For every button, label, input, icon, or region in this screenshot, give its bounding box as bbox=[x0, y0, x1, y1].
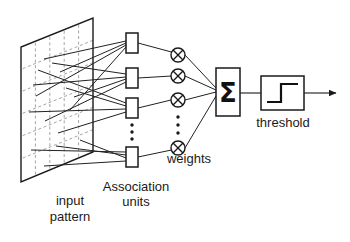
assoc-unit-4[interactable] bbox=[126, 147, 138, 167]
weight-nodes-group bbox=[171, 48, 185, 155]
assoc-unit-3[interactable] bbox=[126, 98, 138, 118]
weight-node-2[interactable] bbox=[171, 69, 185, 83]
threshold-label: threshold bbox=[256, 115, 309, 130]
association-to-weight-connections bbox=[138, 43, 172, 157]
input-pattern-label-line2: pattern bbox=[50, 209, 90, 224]
assoc-unit-2[interactable] bbox=[126, 68, 138, 88]
assoc-unit-1[interactable] bbox=[126, 33, 138, 53]
assoc-unit-ellipsis bbox=[130, 123, 133, 140]
weight-node-1[interactable] bbox=[171, 48, 185, 62]
weight-node-3[interactable] bbox=[171, 93, 185, 107]
summation-symbol: Σ bbox=[219, 78, 237, 108]
summation-box[interactable]: Σ bbox=[216, 68, 240, 116]
neural-network-diagram: Σ input pattern Association units weight… bbox=[0, 0, 350, 242]
association-units-label-line2: units bbox=[122, 194, 150, 209]
weight-node-ellipsis bbox=[176, 115, 179, 134]
input-pattern-plane bbox=[21, 18, 93, 182]
weights-label: weights bbox=[166, 151, 212, 166]
diagram-labels: input pattern Association units weights … bbox=[50, 115, 310, 224]
input-pattern-label-line1: input bbox=[56, 193, 85, 208]
association-units-label-line1: Association bbox=[103, 179, 169, 194]
weight-to-summation-connections bbox=[185, 55, 216, 148]
threshold-box[interactable] bbox=[261, 76, 304, 110]
association-units-group bbox=[126, 33, 138, 167]
input-plane-outline bbox=[21, 18, 93, 182]
input-pattern-grid bbox=[21, 25, 93, 176]
